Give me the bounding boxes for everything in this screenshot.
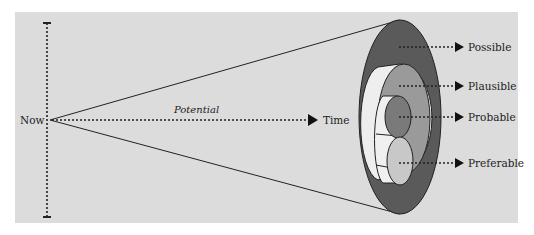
possible-label: Possible bbox=[468, 41, 511, 53]
futures-cone-diagram: Now Potential Time Possible Plausible Pr… bbox=[0, 0, 534, 235]
time-arrow bbox=[52, 114, 318, 126]
now-label: Now bbox=[20, 114, 45, 126]
potential-label: Potential bbox=[173, 104, 219, 115]
time-label: Time bbox=[323, 114, 350, 126]
preferable-region bbox=[387, 137, 413, 185]
preferable-label: Preferable bbox=[468, 157, 524, 169]
plausible-label: Plausible bbox=[468, 80, 517, 92]
probable-label: Probable bbox=[468, 111, 516, 123]
